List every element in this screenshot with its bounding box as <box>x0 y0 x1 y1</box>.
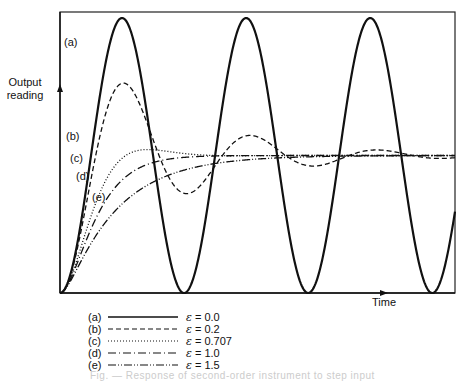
legend-key: (c) <box>88 335 108 347</box>
legend: (a)ε = 0.0(b)ε = 0.2(c)ε = 0.707(d)ε = 1… <box>88 311 232 371</box>
legend-item-a: (a)ε = 0.0 <box>88 311 232 323</box>
annotation-e: (e) <box>92 191 105 203</box>
annotation-c: (c) <box>70 152 83 164</box>
curve-d <box>60 156 455 294</box>
legend-line-swatch <box>108 326 180 332</box>
legend-item-c: (c)ε = 0.707 <box>88 335 232 347</box>
legend-key: (d) <box>88 347 108 359</box>
y-axis-label-line2: reading <box>2 89 48 102</box>
curve-annotations: (a)(b)(c)(d)(e) <box>64 36 105 203</box>
annotation-d: (d) <box>76 170 89 182</box>
chart-curves <box>60 18 455 293</box>
chart-plot-area: (a)(b)(c)(d)(e) <box>0 0 469 385</box>
legend-key: (b) <box>88 323 108 335</box>
legend-line-swatch <box>108 338 180 344</box>
curve-e <box>60 156 455 293</box>
curve-c <box>60 150 455 293</box>
annotation-a: (a) <box>64 36 77 48</box>
legend-line-swatch <box>108 362 180 368</box>
legend-line-swatch <box>108 314 180 320</box>
plot-frame <box>57 12 455 296</box>
y-axis-arrow-icon <box>57 84 63 92</box>
x-axis-label: Time <box>372 296 396 308</box>
y-axis-label: Output reading <box>2 76 48 102</box>
legend-item-b: (b)ε = 0.2 <box>88 323 232 335</box>
legend-item-d: (d)ε = 1.0 <box>88 347 232 359</box>
legend-line-swatch <box>108 350 180 356</box>
figure-caption: Fig. — Response of second-order instrume… <box>90 370 375 381</box>
annotation-b: (b) <box>66 130 79 142</box>
legend-key: (a) <box>88 311 108 323</box>
y-axis-label-line1: Output <box>2 76 48 89</box>
